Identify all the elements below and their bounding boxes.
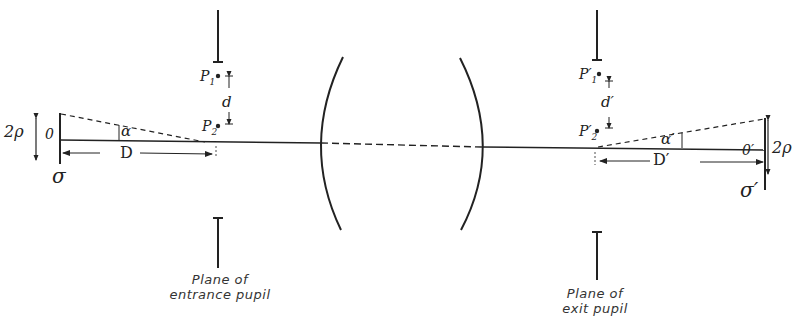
label-point-p2-prime: P′2 — [579, 124, 597, 142]
label-image-height: 2ρ — [772, 140, 792, 156]
label-angle-alpha-prime: α′ — [661, 132, 675, 147]
ray-right-dashed — [598, 119, 764, 147]
optical-axis — [60, 140, 765, 150]
label-object-height: 2ρ — [4, 124, 24, 140]
label-object-plane: σ — [52, 166, 66, 186]
label-point-p2: P2 — [202, 119, 217, 137]
entrance-pupil-stop-bottom — [213, 218, 223, 268]
optical-diagram — [0, 0, 794, 324]
caption-exit-line2: exit pupil — [545, 301, 645, 316]
exit-pupil-stop-top — [592, 10, 602, 60]
caption-entrance-line2: entrance pupil — [160, 287, 280, 302]
point-p1-prime — [597, 72, 601, 76]
label-distance-d-prime: D′ — [653, 152, 669, 168]
label-image-point: 0′ — [742, 143, 754, 157]
caption-entrance-line1: Plane of — [160, 272, 280, 287]
exit-pupil-stop-bottom — [592, 232, 602, 280]
lens-right-surface — [460, 58, 483, 230]
entrance-pupil-stop-top — [213, 10, 223, 62]
label-image-plane: σ′ — [740, 180, 758, 200]
label-object-point: 0 — [45, 127, 54, 141]
point-p1 — [216, 74, 220, 78]
ray-left-dashed — [61, 114, 205, 142]
label-angle-alpha: α — [121, 124, 131, 139]
caption-exit-pupil: Plane of exit pupil — [545, 286, 645, 316]
caption-entrance-pupil: Plane of entrance pupil — [160, 272, 280, 302]
label-separation-d-prime: d′ — [601, 95, 614, 110]
distance-d-arrow-right — [140, 153, 212, 154]
label-point-p1-prime: P′1 — [579, 67, 597, 85]
caption-exit-line1: Plane of — [545, 286, 645, 301]
label-distance-d: D — [120, 145, 133, 161]
label-point-p1: P1 — [200, 69, 215, 87]
label-separation-d: d — [222, 95, 232, 110]
